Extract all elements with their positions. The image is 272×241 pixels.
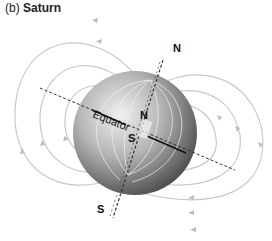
south-pole-label: S [128,132,135,144]
north-pole-label: N [140,109,148,121]
south-axis-label: S [97,203,104,215]
north-axis-label: N [173,42,181,54]
saturn-magnetic-field-diagram: N N S S Equator [0,0,272,241]
